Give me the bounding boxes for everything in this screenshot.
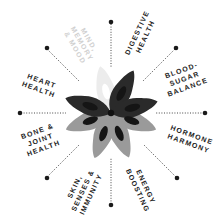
- dot-lower-left: [45, 176, 50, 181]
- health-benefits-diagram: MIND, MEMORY & MOOD DIGESTIVE HEALTH BLO…: [0, 0, 221, 224]
- flower-center: [108, 110, 114, 116]
- label-blood-sugar: BLOOD- SUGAR BALANCE: [160, 60, 209, 98]
- spoke-upper-left: [47, 49, 79, 81]
- dot-bottom: [109, 203, 114, 208]
- label-hormone: HORMONE HARMONY: [166, 124, 214, 154]
- label-digestive: DIGESTIVE HEALTH: [124, 9, 159, 59]
- dot-right: [203, 111, 208, 116]
- dot-lower-right: [175, 176, 180, 181]
- label-skin: SKIN, SENSES & IMMUNITY: [62, 165, 104, 216]
- dot-top: [109, 20, 114, 25]
- label-bone: BONE & JOINT HEALTH: [20, 122, 62, 157]
- label-energy: ENERGY BOOSTING: [125, 164, 159, 213]
- label-heart: HEART HEALTH: [21, 72, 59, 99]
- dot-left: [18, 111, 23, 116]
- spoke-lower-right: [143, 144, 176, 177]
- dot-upper-right: [174, 46, 179, 51]
- dot-upper-left: [45, 46, 50, 51]
- label-mind: MIND, MEMORY & MOOD: [63, 21, 102, 66]
- spoke-lower-left: [47, 144, 80, 177]
